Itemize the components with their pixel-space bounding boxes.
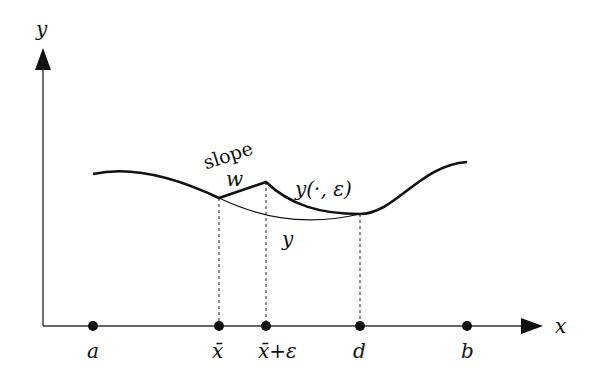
point-xbar-eps [261,321,271,331]
point-a [88,321,98,331]
curve-y-original [219,198,360,220]
label-b: b [461,339,474,363]
y-axis-label: y [35,17,48,41]
label-a: a [87,339,99,363]
y-axis [35,48,51,326]
label-perturbed-curve: y(·, ε) [294,177,352,201]
point-d [355,321,365,331]
label-d: d [353,339,366,363]
curve-y-perturbed [93,162,467,214]
label-original-curve: y [281,227,294,251]
x-axis-arrow-icon [521,318,543,334]
label-xbar-eps: x̄+ε [258,339,297,363]
point-xbar [214,321,224,331]
x-axis-label: x [555,314,566,338]
y-axis-arrow-icon [35,48,51,70]
point-b [462,321,472,331]
label-xbar: x̄ [212,339,223,363]
dashed-guides [219,182,360,326]
diagram-canvas: y x a x̄ x̄+ε d b slope w y(·, ε) y [0,0,595,377]
slope-value-w: w [226,167,243,191]
